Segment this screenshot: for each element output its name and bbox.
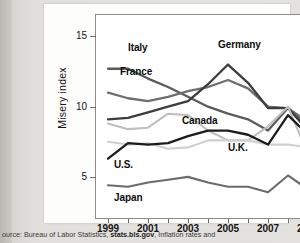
chart-card: Misery index 51015 199920012003200520072… (44, 4, 290, 223)
caption-source-link: stats.bls.gov (110, 230, 154, 239)
x-tick-mark-2000 (128, 219, 129, 223)
series-label-italy: Italy (128, 42, 148, 53)
y-tick-mark-10 (90, 107, 96, 108)
x-tick-mark-2003 (188, 219, 189, 223)
y-tick-mark-5 (90, 177, 96, 178)
x-tick-mark-2004 (208, 219, 209, 223)
series-label-canada: Canada (182, 115, 218, 126)
x-tick-mark-2006 (248, 219, 249, 223)
scanned-page-background: Misery index 51015 199920012003200520072… (0, 0, 300, 243)
series-label-uk: U.K. (228, 142, 248, 153)
x-tick-mark-2001 (148, 219, 149, 223)
x-tick-mark-2005 (228, 219, 229, 223)
series-line-japan (108, 175, 300, 192)
series-label-france: France (120, 66, 152, 77)
y-tick-mark-15 (90, 36, 96, 37)
series-label-us: U.S. (114, 159, 133, 170)
series-label-japan: Japan (114, 192, 142, 203)
y-tick-label-15: 15 (65, 30, 87, 41)
y-tick-label-5: 5 (65, 171, 87, 182)
page-edge-shadow (0, 0, 12, 243)
caption-prefix: ource: Bureau of Labor Statistics, (2, 230, 110, 239)
series-label-germany: Germany (218, 39, 261, 50)
y-tick-label-10: 10 (65, 101, 87, 112)
x-tick-mark-2008 (288, 219, 289, 223)
y-axis-title: Misery index (56, 38, 68, 158)
x-tick-mark-1999 (108, 219, 109, 223)
source-caption: ource: Bureau of Labor Statistics, stats… (2, 230, 300, 239)
x-tick-mark-2007 (268, 219, 269, 223)
caption-suffix: , Inflation rates and (154, 230, 215, 239)
x-tick-mark-2002 (168, 219, 169, 223)
